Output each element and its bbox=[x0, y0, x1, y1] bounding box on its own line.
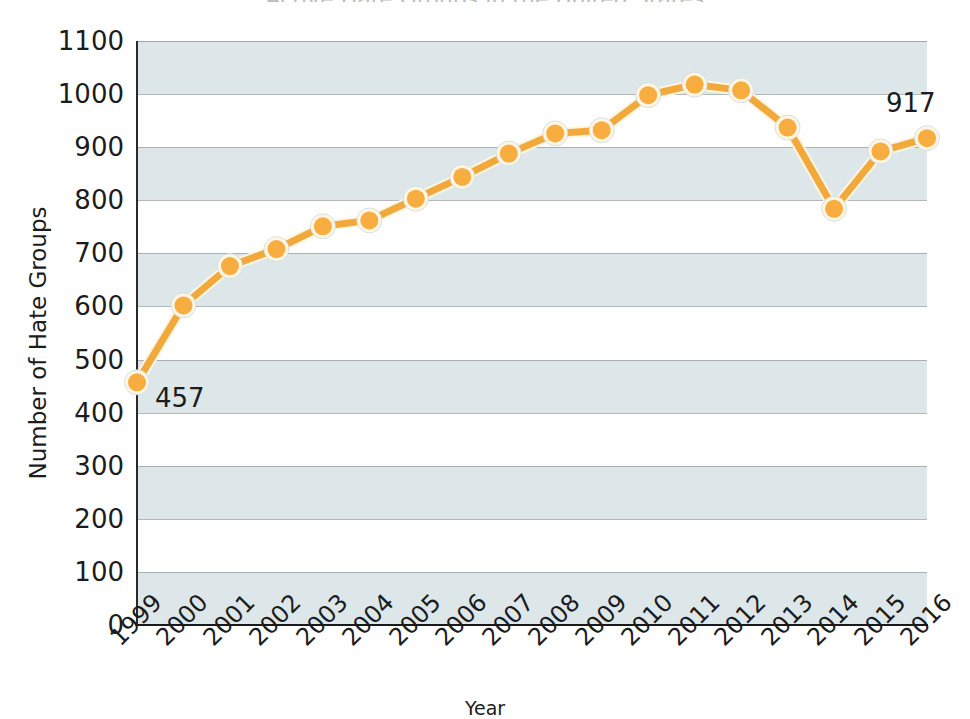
marker-dot bbox=[872, 142, 890, 160]
marker-dot bbox=[453, 168, 471, 186]
data-point-marker[interactable] bbox=[589, 118, 614, 143]
data-point-marker[interactable] bbox=[915, 126, 940, 151]
last-value-label: 917 bbox=[886, 90, 936, 116]
marker-dot bbox=[918, 129, 936, 147]
marker-dot bbox=[500, 145, 518, 163]
data-point-marker[interactable] bbox=[357, 208, 382, 233]
data-point-marker[interactable] bbox=[543, 121, 568, 146]
marker-dot bbox=[639, 86, 657, 104]
marker-dot bbox=[779, 119, 797, 137]
data-point-marker[interactable] bbox=[310, 214, 335, 239]
data-point-marker[interactable] bbox=[868, 139, 893, 164]
marker-dot bbox=[732, 81, 750, 99]
data-point-marker[interactable] bbox=[636, 83, 661, 108]
data-point-marker[interactable] bbox=[682, 72, 707, 97]
marker-dot bbox=[407, 190, 425, 208]
marker-dot bbox=[221, 257, 239, 275]
first-value-label: 457 bbox=[155, 385, 205, 411]
data-point-marker[interactable] bbox=[496, 141, 521, 166]
series-line-halo bbox=[137, 85, 927, 383]
data-point-marker[interactable] bbox=[775, 115, 800, 140]
marker-dot bbox=[593, 121, 611, 139]
data-series-layer bbox=[0, 0, 970, 719]
marker-dot bbox=[360, 211, 378, 229]
data-point-marker[interactable] bbox=[403, 186, 428, 211]
series-line bbox=[137, 85, 927, 383]
marker-dot bbox=[267, 240, 285, 258]
data-point-marker[interactable] bbox=[822, 196, 847, 221]
marker-dot bbox=[825, 200, 843, 218]
marker-dot bbox=[174, 296, 192, 314]
marker-dot bbox=[314, 217, 332, 235]
marker-dot bbox=[546, 124, 564, 142]
marker-dot bbox=[686, 76, 704, 94]
data-point-marker[interactable] bbox=[729, 78, 754, 103]
data-point-marker[interactable] bbox=[217, 254, 242, 279]
data-point-marker[interactable] bbox=[450, 164, 475, 189]
data-point-marker[interactable] bbox=[264, 237, 289, 262]
data-point-marker[interactable] bbox=[125, 370, 150, 395]
marker-dot bbox=[128, 373, 146, 391]
data-point-marker[interactable] bbox=[171, 293, 196, 318]
hate-groups-line-chart: Active Hate Groups in the United States … bbox=[0, 0, 970, 719]
